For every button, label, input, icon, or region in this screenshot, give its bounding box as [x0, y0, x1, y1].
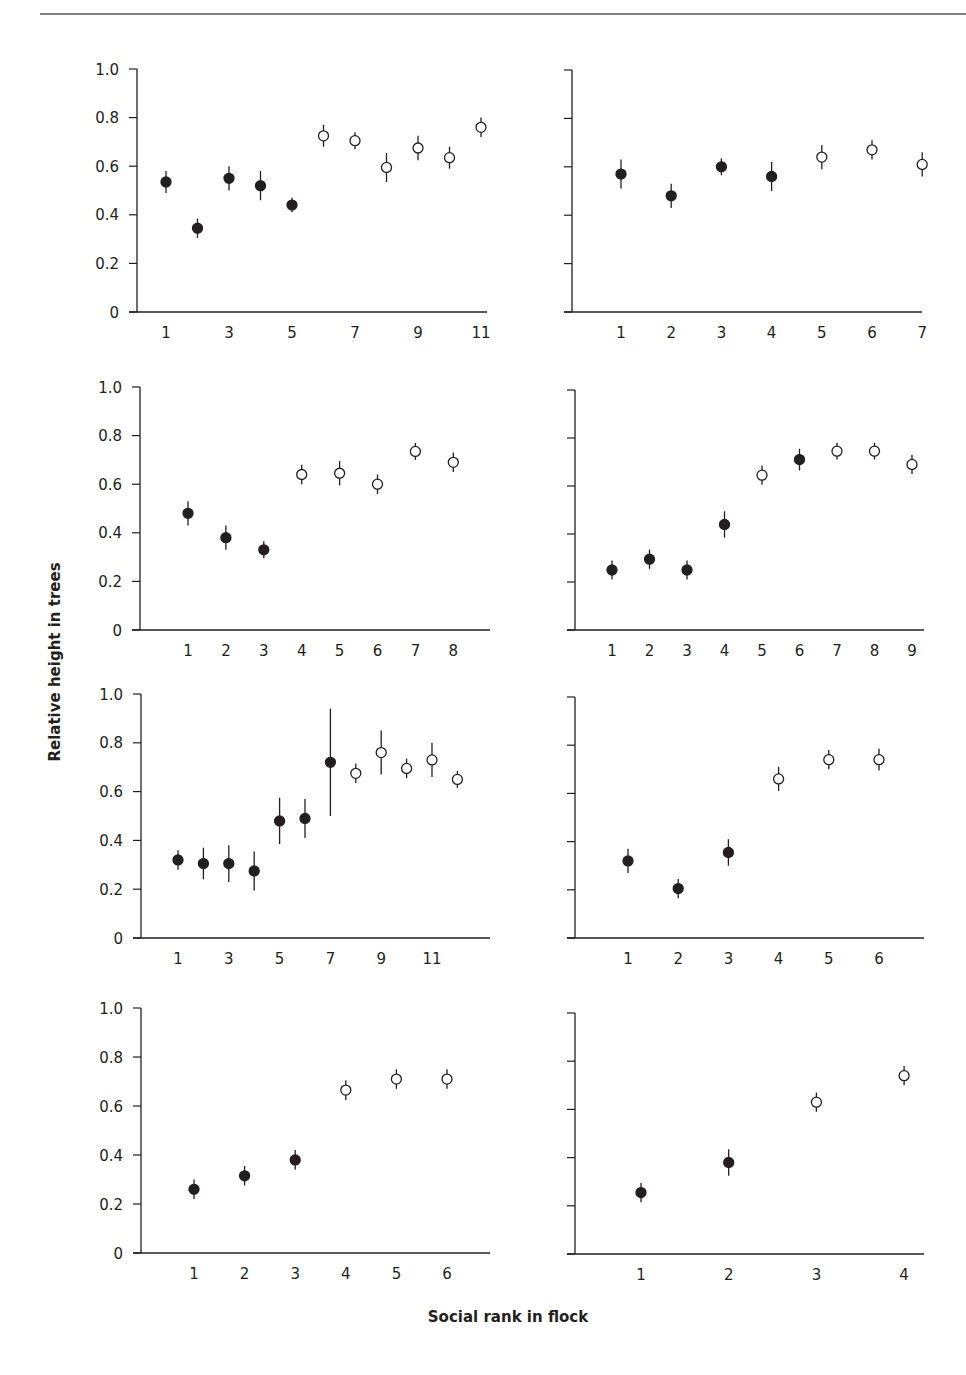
open-marker: [297, 469, 307, 479]
x-tick-label: 5: [824, 950, 834, 968]
x-tick-label: 8: [449, 642, 459, 660]
filled-marker: [636, 1188, 646, 1198]
open-marker: [907, 459, 917, 469]
data-point: [817, 145, 827, 169]
data-point: [720, 511, 730, 537]
filled-marker: [682, 565, 692, 575]
open-marker: [442, 1074, 452, 1084]
y-tick-label: 0.4: [99, 832, 123, 850]
data-point: [413, 136, 423, 160]
data-point: [335, 461, 345, 485]
data-point: [161, 171, 171, 193]
x-tick-label: 9: [376, 950, 386, 968]
y-tick-label: 0.4: [95, 206, 119, 224]
panels-group: 00.20.40.60.81.01357911123456700.20.40.6…: [95, 61, 927, 1285]
x-tick-label: 3: [724, 950, 734, 968]
data-point: [391, 1069, 401, 1089]
data-point: [240, 1166, 250, 1186]
y-tick-label: 0.8: [98, 427, 122, 445]
x-tick-label: 9: [907, 642, 917, 660]
x-tick-label: 5: [757, 642, 767, 660]
data-point: [173, 850, 183, 870]
filled-marker: [240, 1171, 250, 1181]
data-point: [351, 764, 361, 784]
x-tick-label: 3: [224, 950, 234, 968]
x-tick-label: 7: [411, 642, 421, 660]
open-marker: [870, 446, 880, 456]
x-tick-label: 6: [867, 324, 877, 342]
x-tick-label: 2: [666, 324, 676, 342]
filled-marker: [173, 855, 183, 865]
y-tick-label: 1.0: [95, 61, 119, 79]
data-point: [716, 158, 726, 175]
panel-second-left: 00.20.40.60.81.012345678: [98, 379, 490, 661]
data-point: [189, 1180, 199, 1200]
filled-marker: [259, 545, 269, 555]
x-tick-label: 6: [442, 1265, 452, 1283]
filled-marker: [767, 171, 777, 181]
filled-marker: [189, 1184, 199, 1194]
y-tick-label: 0.2: [99, 881, 123, 899]
data-point: [300, 799, 310, 838]
open-marker: [867, 145, 877, 155]
filled-marker: [287, 200, 297, 210]
data-point: [907, 455, 917, 474]
y-tick-label: 0.6: [99, 1098, 123, 1116]
x-tick-label: 6: [373, 642, 383, 660]
y-tick-label: 0.4: [99, 1147, 123, 1165]
open-marker: [427, 755, 437, 765]
open-marker: [402, 763, 412, 773]
x-tick-label: 2: [240, 1265, 250, 1283]
data-point: [382, 153, 392, 182]
data-point: [442, 1069, 452, 1089]
filled-marker: [249, 866, 259, 876]
x-tick-label: 3: [812, 1266, 822, 1284]
open-marker: [351, 768, 361, 778]
open-marker: [757, 470, 767, 480]
data-point: [448, 453, 458, 472]
data-point: [373, 474, 383, 493]
x-axis-title: Social rank in flock: [428, 1308, 589, 1326]
open-marker: [410, 446, 420, 456]
panel-bottom-right: 1234: [567, 1013, 924, 1284]
x-tick-label: 7: [832, 642, 842, 660]
open-marker: [811, 1097, 821, 1107]
open-marker: [448, 457, 458, 467]
x-tick-label: 6: [795, 642, 805, 660]
open-marker: [824, 755, 834, 765]
x-tick-label: 11: [471, 324, 490, 342]
filled-marker: [666, 191, 676, 201]
open-marker: [350, 136, 360, 146]
open-marker: [452, 774, 462, 784]
open-marker: [335, 468, 345, 478]
filled-marker: [224, 859, 234, 869]
x-tick-label: 3: [682, 642, 692, 660]
data-point: [249, 851, 259, 890]
x-tick-label: 7: [350, 324, 360, 342]
y-tick-label: 0.8: [99, 734, 123, 752]
y-tick-label: 0.2: [95, 255, 119, 273]
y-tick-label: 0.2: [99, 1196, 123, 1214]
x-tick-label: 4: [774, 950, 784, 968]
filled-marker: [716, 162, 726, 172]
x-tick-label: 1: [183, 642, 193, 660]
data-point: [193, 218, 203, 237]
data-point: [723, 839, 733, 866]
data-point: [774, 767, 784, 791]
x-tick-label: 5: [275, 950, 285, 968]
y-tick-label: 0: [112, 622, 122, 640]
x-tick-label: 5: [392, 1265, 402, 1283]
open-marker: [382, 162, 392, 172]
data-point: [376, 731, 386, 775]
filled-marker: [161, 177, 171, 187]
y-axis-title: Relative height in trees: [46, 562, 64, 761]
data-point: [410, 443, 420, 460]
filled-marker: [645, 554, 655, 564]
data-point: [645, 550, 655, 569]
filled-marker: [198, 859, 208, 869]
filled-marker: [224, 173, 234, 183]
panel-second-right: 123456789: [567, 390, 924, 660]
x-tick-label: 4: [899, 1266, 909, 1284]
open-marker: [899, 1071, 909, 1081]
data-point: [636, 1183, 646, 1202]
